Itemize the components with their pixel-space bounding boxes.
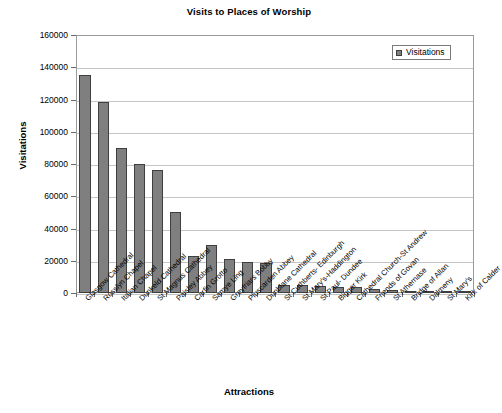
legend-swatch-icon: [396, 50, 402, 56]
chart-title: Visits to Places of Worship: [0, 6, 498, 17]
y-tick-label: 40000: [12, 225, 68, 234]
x-axis-title: Attractions: [0, 386, 498, 397]
y-tick-label: 160000: [12, 31, 68, 40]
bar: [98, 102, 109, 293]
y-tick-label: 60000: [12, 192, 68, 201]
y-tick-label: 20000: [12, 257, 68, 266]
y-tick-label: 80000: [12, 160, 68, 169]
x-axis-labels: Glasgow CathedralRosslyn ChapelItalian C…: [0, 293, 498, 388]
y-axis-title: Visitations: [17, 96, 28, 196]
y-tick-label: 120000: [12, 96, 68, 105]
y-tick-label: 140000: [12, 63, 68, 72]
legend: Visitations: [392, 45, 451, 60]
y-tick-label: 100000: [12, 128, 68, 137]
bar: [79, 75, 90, 293]
legend-label: Visitations: [406, 48, 445, 57]
